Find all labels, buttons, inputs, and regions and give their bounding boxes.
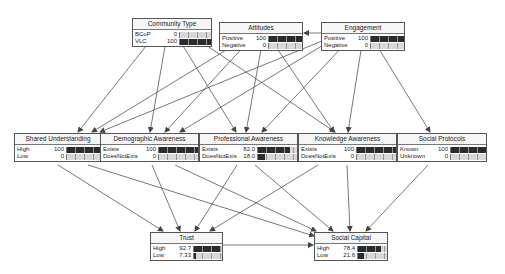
node-title: Demographic Awareness [101,134,198,145]
state-label: Negative [322,42,350,49]
state-value: 7.33 [173,252,193,259]
state-value: 0 [430,153,450,160]
state-label: Negative [220,42,248,49]
state-value: 78.4 [337,245,357,252]
state-row-positive[interactable]: Positive 100 [220,35,302,42]
node-knowledge-awareness[interactable]: Knowledge Awareness Exists 100 DoesNotEx… [298,133,397,162]
state-row-positive[interactable]: Positive 100 [322,35,404,42]
state-label: High [15,146,46,153]
state-row-unknown[interactable]: Unknown 0 [398,153,486,160]
state-label: High [151,245,173,252]
edge-engagement-to-demographic-awareness [180,41,330,132]
state-label: Low [315,252,337,259]
node-title: Professional Awareness [200,134,297,145]
state-label: DoesNotExist [299,153,336,160]
node-title: Engagement [322,23,404,34]
node-attitudes[interactable]: Attitudes Positive 100 Negative 0 [219,22,303,51]
state-label: Low [15,153,46,160]
belief-bar [193,253,222,259]
belief-bar [268,36,302,42]
state-row-vlc[interactable]: VLC 100 [133,38,211,45]
edge-demographic-awareness-to-trust [152,165,180,231]
belief-bar [257,154,297,160]
node-shared-understanding[interactable]: Shared Understanding High 100 Low 0 [14,133,102,162]
belief-bar-ticks [371,43,404,49]
edge-attitudes-to-demographic-awareness [165,44,246,132]
state-value: 0 [138,153,158,160]
state-label: Positive [322,35,350,42]
belief-bar [179,32,211,38]
edge-attitudes-to-professional-awareness [246,44,262,132]
state-value: 0 [336,153,356,160]
state-row-high[interactable]: High 78.4 [315,245,387,252]
state-row-low[interactable]: Low 0 [15,153,101,160]
node-states: High 100 Low 0 [15,145,101,161]
node-states: High 78.4 Low 21.6 [315,244,387,260]
state-label: BCoP [133,31,159,38]
state-row-doesnotexist[interactable]: DoesNotExist 18.0 [200,153,297,160]
node-social-capital[interactable]: Social Capital High 78.4 Low 21.6 [314,232,388,261]
node-trust[interactable]: Trust High 92.7 Low 7.33 [150,232,223,261]
state-row-exists[interactable]: Exists 100 [299,146,396,153]
node-social-protocols[interactable]: Social Protocols Known 100 Unknown 0 [397,133,487,162]
node-demographic-awareness[interactable]: Demographic Awareness Exists 100 DoesNot… [100,133,199,162]
state-label: Positive [220,35,248,42]
belief-bar [268,43,302,49]
state-value: 100 [248,35,268,42]
belief-bar [370,36,404,42]
state-value: 100 [138,146,158,153]
belief-bar-ticks [451,147,486,153]
node-title: Attitudes [220,23,302,34]
state-value: 0 [248,42,268,49]
node-states: Known 100 Unknown 0 [398,145,486,161]
state-row-negative[interactable]: Negative 0 [220,42,302,49]
node-title: Community Type [133,19,211,30]
belief-bar [193,246,222,252]
belief-bar [158,147,198,153]
state-value: 100 [430,146,450,153]
state-row-known[interactable]: Known 100 [398,146,486,153]
belief-bar-ticks [159,154,198,160]
state-value: 82.0 [237,146,257,153]
edge-attitudes-to-shared-understanding [92,44,236,132]
state-row-exists[interactable]: Exists 82.0 [200,146,297,153]
state-row-high[interactable]: High 92.7 [151,245,222,252]
state-row-doesnotexist[interactable]: DoesNotExist 0 [299,153,396,160]
state-label: Exists [200,146,237,153]
belief-bar [356,154,396,160]
edge-community-type-to-social-capital [200,41,335,132]
belief-bar [356,147,396,153]
edge-knowledge-awareness-to-social-capital [347,165,350,231]
state-value: 100 [159,38,179,45]
edge-engagement-to-social-protocols [376,44,430,132]
belief-bar-ticks [371,36,404,42]
node-title: Trust [151,233,222,244]
node-community-type[interactable]: Community Type BCoP 0 VLC 100 [132,18,212,47]
edge-community-type-to-professional-awareness [180,41,236,132]
state-row-low[interactable]: Low 21.6 [315,252,387,259]
belief-bar-ticks [180,32,211,38]
state-value: 0 [159,31,179,38]
state-row-bcop[interactable]: BCoP 0 [133,31,211,38]
belief-bar-ticks [358,253,387,259]
node-title: Social Protocols [398,134,486,145]
node-states: Exists 82.0 DoesNotExist 18.0 [200,145,297,161]
edge-engagement-to-knowledge-awareness [348,44,362,132]
belief-bar [357,246,387,252]
belief-bar [370,43,404,49]
edge-community-type-to-demographic-awareness [150,41,166,132]
state-value: 18.0 [237,153,257,160]
edge-social-protocols-to-social-capital [366,165,428,231]
node-engagement[interactable]: Engagement Positive 100 Negative 0 [321,22,405,51]
belief-bar-ticks [357,147,396,153]
node-title: Knowledge Awareness [299,134,396,145]
state-row-doesnotexist[interactable]: DoesNotExist 0 [101,153,198,160]
state-row-negative[interactable]: Negative 0 [322,42,404,49]
state-row-high[interactable]: High 100 [15,146,101,153]
belief-bar-ticks [180,39,211,45]
belief-bar-ticks [269,43,302,49]
state-row-low[interactable]: Low 7.33 [151,252,222,259]
node-professional-awareness[interactable]: Professional Awareness Exists 82.0 DoesN… [199,133,298,162]
belief-bar-ticks [67,147,101,153]
state-row-exists[interactable]: Exists 100 [101,146,198,153]
